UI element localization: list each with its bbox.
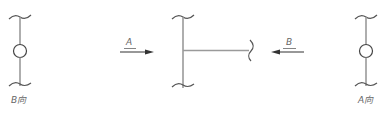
center-view-t-joint bbox=[172, 15, 253, 88]
arrow-b-head-icon bbox=[271, 50, 280, 55]
right-view bbox=[355, 15, 377, 86]
left-view bbox=[9, 15, 31, 86]
arrow-a bbox=[120, 49, 154, 55]
arrow-b bbox=[271, 49, 304, 55]
left-view-label: B向 bbox=[11, 96, 26, 105]
arrow-a-label: A bbox=[126, 38, 132, 47]
center-right-break-icon bbox=[249, 40, 253, 61]
arrow-a-head-icon bbox=[145, 50, 154, 55]
diagram-canvas bbox=[0, 0, 386, 117]
right-view-label: A向 bbox=[358, 96, 373, 105]
left-view-circle-icon bbox=[14, 45, 27, 58]
right-view-circle-icon bbox=[360, 45, 373, 58]
arrow-b-label: B bbox=[286, 38, 292, 47]
